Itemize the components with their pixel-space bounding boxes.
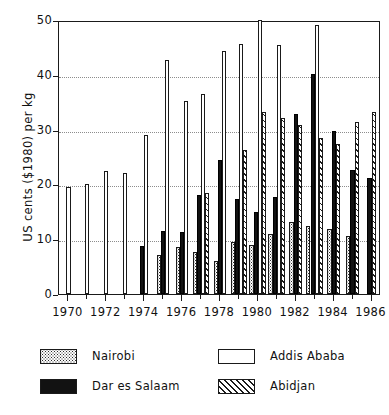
y-axis-title: US cents ($1980) per kg xyxy=(21,47,35,287)
x-tick-mark-1977 xyxy=(200,295,201,299)
legend-label-abidjan: Abidjan xyxy=(270,379,315,394)
x-tick-mark-1975 xyxy=(162,295,163,299)
bar-addis-ababa-1976 xyxy=(184,101,188,294)
y-tick-label-30: 30 xyxy=(18,123,52,137)
x-tick-mark-1971 xyxy=(86,295,87,299)
legend-swatch-dar xyxy=(40,379,77,394)
bar-abidjan-1986 xyxy=(372,112,376,294)
legend-swatch-abidjan xyxy=(218,379,255,394)
chart-figure: US cents ($1980) per kg 01020304050 1970… xyxy=(0,0,389,415)
bar-addis-ababa-1973 xyxy=(123,173,127,294)
x-tick-mark-1970 xyxy=(67,295,68,301)
y-tick-label-10: 10 xyxy=(18,232,52,246)
legend-label-nairobi: Nairobi xyxy=(92,349,135,364)
bar-abidjan-1984 xyxy=(336,144,340,294)
bar-abidjan-1981 xyxy=(281,118,285,294)
plot-inner xyxy=(59,22,379,294)
y-tick-label-20: 20 xyxy=(18,177,52,191)
x-tick-mark-1976 xyxy=(181,295,182,301)
legend-swatch-nairobi xyxy=(40,349,77,364)
bar-abidjan-1979 xyxy=(243,150,247,294)
x-tick-mark-1985 xyxy=(352,295,353,299)
bar-addis-ababa-1971 xyxy=(85,184,89,294)
x-tick-mark-1986 xyxy=(371,295,372,301)
x-tick-mark-1973 xyxy=(124,295,125,299)
x-tick-mark-1981 xyxy=(276,295,277,299)
y-tick-label-0: 0 xyxy=(18,287,52,301)
gridline-y-40 xyxy=(59,77,379,78)
bar-abidjan-1983 xyxy=(319,138,323,294)
x-tick-mark-1984 xyxy=(333,295,334,301)
y-tick-label-40: 40 xyxy=(18,68,52,82)
x-tick-mark-1974 xyxy=(143,295,144,301)
bar-addis-ababa-1978 xyxy=(222,51,226,294)
plot-area xyxy=(58,21,380,295)
bar-abidjan-1982 xyxy=(298,125,302,294)
legend-swatch-addis xyxy=(218,349,255,364)
x-tick-mark-1982 xyxy=(295,295,296,301)
bar-abidjan-1977 xyxy=(205,193,209,294)
bar-addis-ababa-1970 xyxy=(66,187,70,294)
bar-addis-ababa-1974 xyxy=(144,135,148,294)
x-tick-mark-1972 xyxy=(105,295,106,301)
chart-legend: NairobiAddis AbabaDar es SalaamAbidjan xyxy=(40,348,370,408)
x-tick-mark-1983 xyxy=(314,295,315,299)
y-tick-label-50: 50 xyxy=(18,13,52,27)
legend-label-dar: Dar es Salaam xyxy=(92,379,180,394)
bar-abidjan-1980 xyxy=(262,112,266,294)
x-tick-mark-1978 xyxy=(219,295,220,301)
y-tick-mark-0 xyxy=(53,295,58,296)
bar-addis-ababa-1972 xyxy=(104,171,108,294)
x-tick-mark-1979 xyxy=(238,295,239,299)
legend-label-addis: Addis Ababa xyxy=(270,349,345,364)
x-tick-mark-1980 xyxy=(257,295,258,301)
bar-addis-ababa-1975 xyxy=(165,60,169,294)
bar-abidjan-1985 xyxy=(355,122,359,294)
x-tick-label-1986: 1986 xyxy=(348,305,389,319)
